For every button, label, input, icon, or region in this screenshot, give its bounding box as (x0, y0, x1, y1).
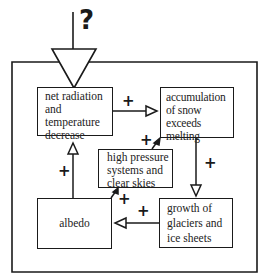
input-triangle (52, 49, 96, 88)
sign-hp-to-acc: + (140, 133, 153, 148)
sign-albedo-to-net: + (58, 164, 71, 179)
sign-net-to-acc: + (122, 94, 135, 109)
sign-growth-to-albedo: + (137, 204, 150, 219)
arrowhead-albedo-to-net (68, 143, 78, 154)
sign-albedo-to-hp: + (118, 192, 131, 207)
node-high-pressure: high pressure systems and clear skies (98, 149, 173, 188)
node-net-radiation: net radiation and temperature decrease (37, 87, 113, 136)
sign-acc-to-growth: + (204, 156, 217, 171)
node-albedo: albedo (37, 198, 112, 249)
node-label: albedo (59, 217, 90, 230)
unknown-input-question-mark: ? (79, 6, 94, 34)
node-label: accumulation of snow exceeds melting (166, 91, 233, 143)
arrowhead-net-to-acc (146, 106, 157, 116)
node-label: growth of glaciers and ice sheets (167, 201, 232, 246)
arrowhead-acc-to-growth (191, 185, 201, 196)
arrowhead-growth-to-albedo (115, 218, 126, 228)
node-snow-accumulation: accumulation of snow exceeds melting (160, 87, 234, 138)
arrowhead-hp-to-acc (154, 138, 160, 145)
node-glacier-growth: growth of glaciers and ice sheets (159, 198, 233, 248)
node-label: high pressure systems and clear skies (107, 151, 172, 190)
node-label: net radiation and temperature decrease (45, 90, 112, 142)
